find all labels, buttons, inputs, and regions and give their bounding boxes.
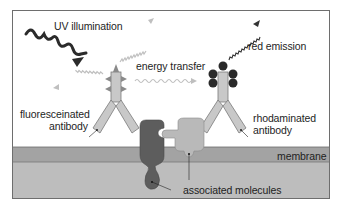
rhodaminated-label-line2: antibody [253,124,292,136]
rhodaminated-label-line1: rhodaminated [253,112,316,124]
membrane-label: membrane [277,150,326,162]
fluoresceinated-label-line1: fluoresceinated [20,108,88,120]
associated-molecules-label: associated molecules [183,184,281,196]
fret-diagram: UV illumination energy transfer red emis… [0,0,341,211]
red-emission-label: red emission [248,40,306,52]
energy-transfer-label: energy transfer [136,60,205,72]
uv-illumination-label: UV illumination [54,20,123,32]
fluoresceinated-label-line2: antibody [20,120,88,132]
diagram-canvas [0,0,341,211]
